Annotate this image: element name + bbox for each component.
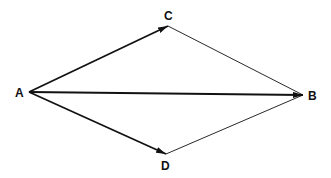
arrow-a-d xyxy=(29,92,166,154)
arrow-a-c xyxy=(29,26,168,92)
arrow-a-b xyxy=(29,92,303,95)
edge-c-b xyxy=(168,26,303,95)
node-label-b: B xyxy=(308,89,317,103)
node-label-d: D xyxy=(161,159,170,173)
node-label-a: A xyxy=(15,86,24,100)
edge-d-b xyxy=(166,95,303,154)
vector-diagram: A C B D xyxy=(0,0,331,178)
node-label-c: C xyxy=(164,9,173,23)
